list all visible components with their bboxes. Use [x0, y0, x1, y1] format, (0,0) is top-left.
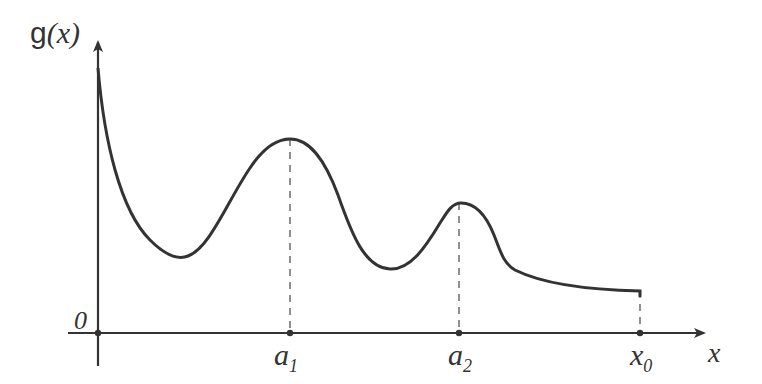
curve-g — [98, 68, 640, 297]
label-a1: a1 — [274, 340, 298, 370]
label-x0-name: x — [630, 338, 643, 371]
function-plot — [0, 0, 762, 384]
origin-dot — [95, 330, 101, 336]
y-label-arg: (x) — [47, 16, 80, 49]
label-a2-sub: 2 — [463, 356, 472, 376]
origin-label: 0 — [74, 308, 87, 334]
label-a2-name: a — [448, 338, 463, 371]
x0-dot — [637, 330, 643, 336]
y-label-func: g — [30, 16, 47, 49]
label-x0: x0 — [630, 340, 652, 370]
a2-dot — [456, 330, 462, 336]
x-axis-label: x — [708, 339, 720, 367]
label-a1-sub: 1 — [289, 356, 298, 376]
label-a1-name: a — [274, 338, 289, 371]
label-x0-sub: 0 — [643, 356, 652, 376]
a1-dot — [287, 330, 293, 336]
label-a2: a2 — [448, 340, 472, 370]
y-axis-label: g(x) — [30, 18, 80, 48]
